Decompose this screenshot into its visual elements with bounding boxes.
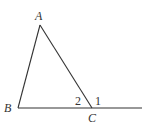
vertex-label-a: A [34,9,43,23]
angle-label-2: 2 [75,94,81,108]
vertex-label-b: B [4,101,12,115]
side-ac [40,25,92,108]
geometry-figure: A B C 2 1 [0,0,151,125]
angle-label-1: 1 [95,94,101,108]
triangle-diagram: A B C 2 1 [0,0,151,125]
vertex-label-c: C [88,111,97,125]
side-ab [18,25,40,108]
